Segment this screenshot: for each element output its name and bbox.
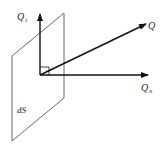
surface-plane <box>12 13 64 141</box>
vector-q-arrow <box>40 24 146 75</box>
label-qn: Qn <box>141 82 152 94</box>
label-q: Q <box>148 20 156 31</box>
diagram-canvas: Qt Q Qn dS <box>0 0 164 149</box>
label-qt: Qt <box>17 11 27 23</box>
label-ds: dS <box>17 105 27 115</box>
